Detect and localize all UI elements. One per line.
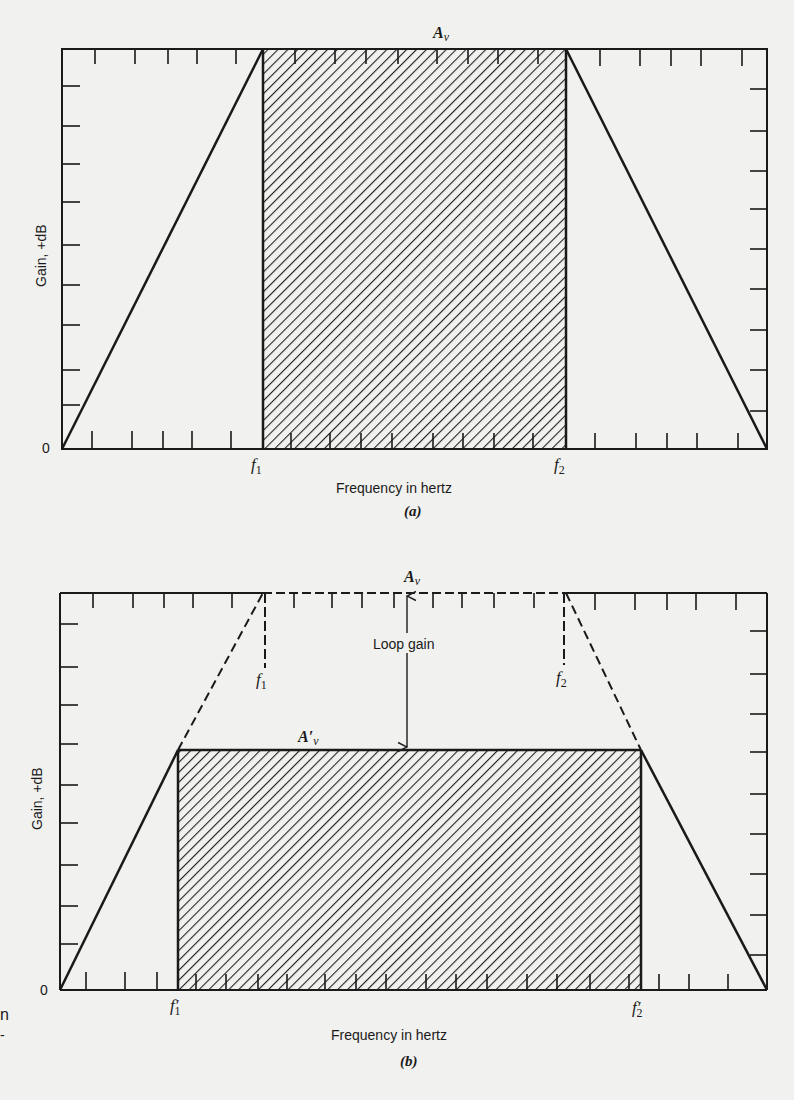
b-f2prime-label: f′2: [632, 998, 642, 1020]
b-f1-label: f1: [256, 670, 267, 692]
b-ylabel: Gain, +dB: [29, 767, 45, 830]
a-xlabel: Frequency in hertz: [336, 480, 452, 496]
bandwidth-shaded-region: [263, 49, 566, 449]
b-f1prime-label: f′1: [170, 996, 180, 1018]
panel-a: Av 0 Gain, +dB f1 f2 Frequency in hertz …: [33, 24, 767, 520]
b-f2-label: f2: [556, 668, 567, 690]
rising-slope: [60, 750, 178, 990]
falling-slope: [641, 750, 767, 990]
open-loop-falling-dashed: [566, 593, 641, 750]
a-f1-label: f1: [251, 455, 262, 477]
margin-fragment: n: [0, 1006, 9, 1023]
feedback-bandwidth-figure: Av 0 Gain, +dB f1 f2 Frequency in hertz …: [0, 0, 794, 1100]
right-ticks: [750, 631, 767, 955]
falling-slope: [566, 49, 767, 449]
open-loop-rising-dashed: [178, 593, 263, 750]
b-y-origin: 0: [40, 982, 48, 998]
top-ticks: [93, 593, 736, 610]
b-top-label: Av: [403, 568, 421, 588]
a-y-origin: 0: [42, 440, 50, 456]
margin-fragment: -: [0, 1027, 5, 1043]
panel-b: Loop gain: [29, 568, 767, 1070]
left-ticks: [60, 624, 78, 944]
b-xlabel: Frequency in hertz: [331, 1027, 447, 1043]
loop-gain-label: Loop gain: [373, 636, 435, 652]
a-top-label: Av: [432, 24, 450, 44]
left-ticks: [62, 86, 80, 405]
a-f2-label: f2: [554, 455, 565, 477]
right-ticks: [750, 89, 767, 411]
b-reduced-label: A′v: [297, 728, 319, 748]
bandwidth-shaded-region: [178, 750, 641, 990]
rising-slope: [62, 49, 263, 449]
a-caption: (a): [404, 503, 422, 520]
b-caption: (b): [400, 1053, 418, 1070]
a-ylabel: Gain, +dB: [33, 224, 49, 287]
